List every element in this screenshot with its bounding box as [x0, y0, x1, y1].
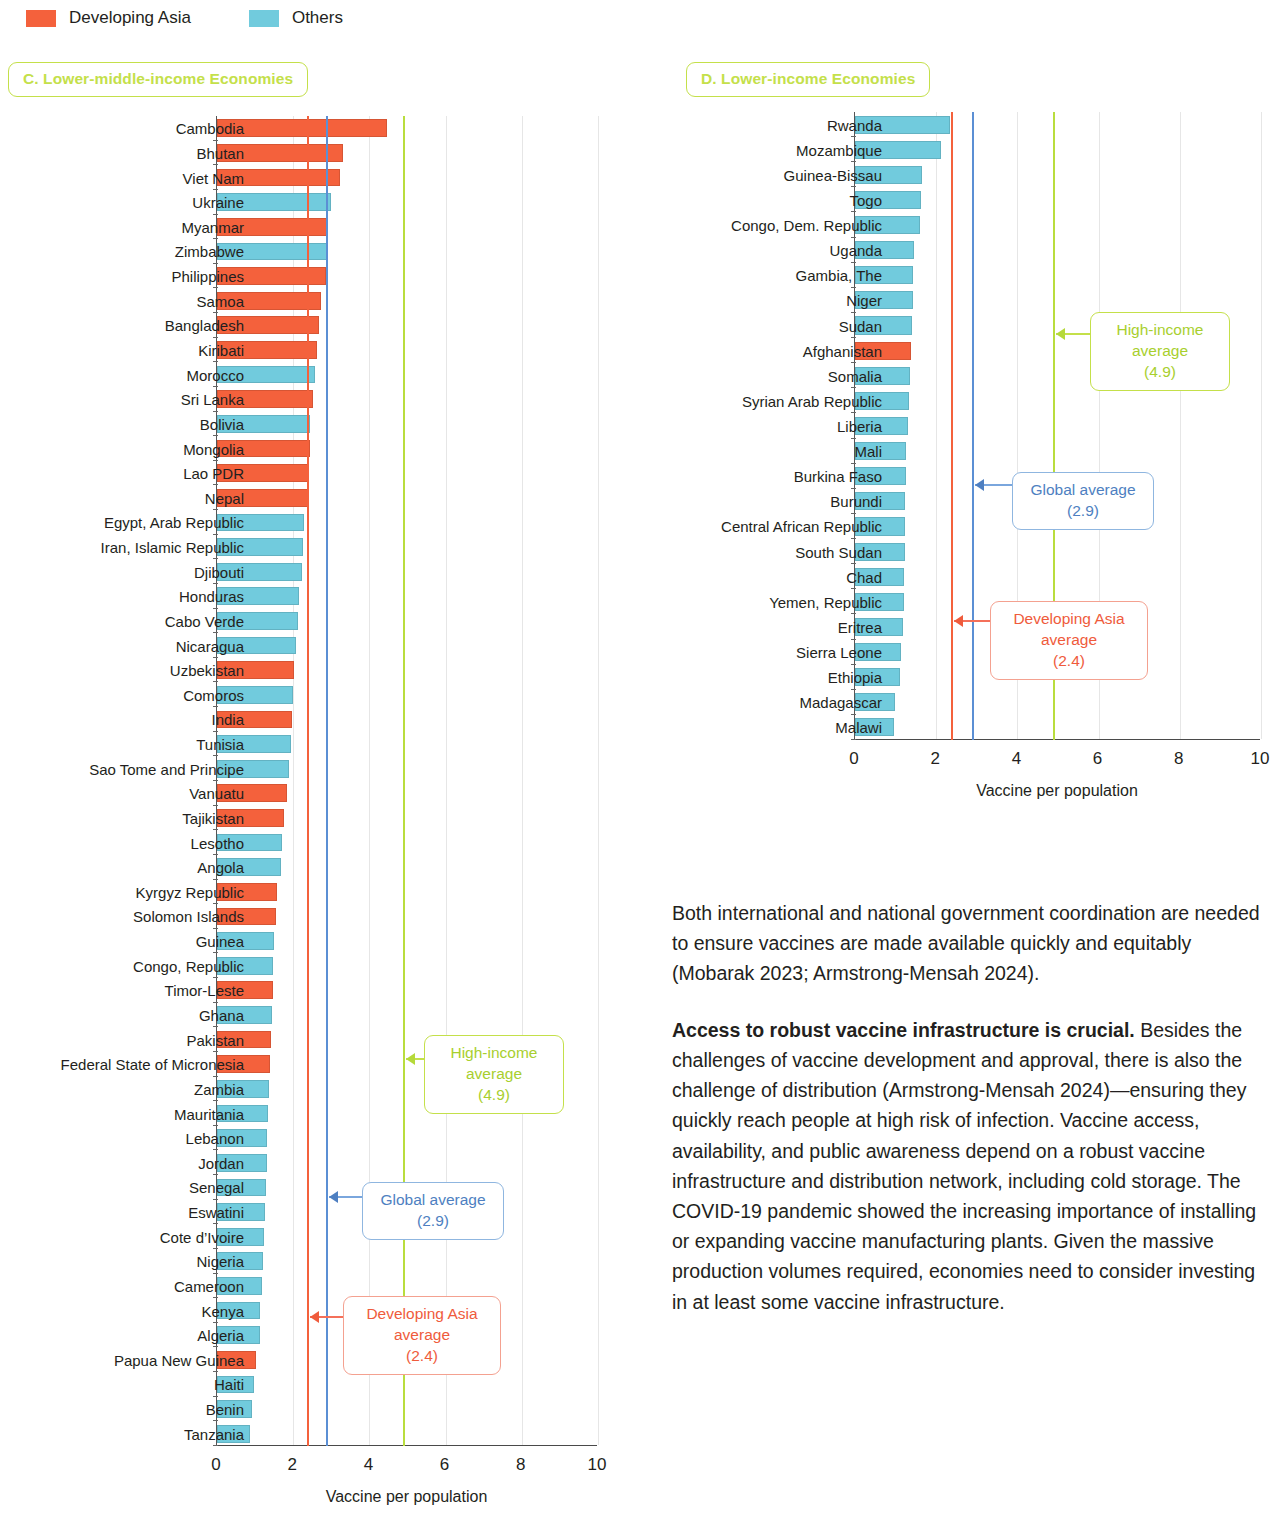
chart-c-y-tick — [213, 1420, 218, 1421]
chart-c-bar-row — [217, 193, 597, 211]
chart-c-category-label: Bhutan — [36, 146, 244, 161]
callout-high-income-average-c: High-incomeaverage(4.9) — [424, 1035, 564, 1114]
chart-c-category-label: Bangladesh — [36, 318, 244, 333]
chart-c-x-tick-label: 10 — [572, 1455, 622, 1475]
chart-c-bar-row — [217, 144, 597, 162]
chart-d-category-label: Burundi — [678, 494, 882, 509]
chart-c-bar-row — [217, 1277, 597, 1295]
chart-c-category-label: Egypt, Arab Republic — [36, 515, 244, 530]
chart-c-y-tick — [213, 1002, 218, 1003]
chart-d-refline-global — [972, 112, 974, 740]
chart-c-category-label: Congo, Republic — [36, 959, 244, 974]
chart-c-y-tick — [213, 411, 218, 412]
chart-d-y-tick — [851, 211, 856, 212]
chart-c-x-tick-label: 2 — [267, 1455, 317, 1475]
chart-d-bar-row — [855, 392, 1260, 410]
chart-d-y-tick — [851, 337, 856, 338]
paragraph-2: Access to robust vaccine infrastructure … — [672, 1015, 1262, 1317]
chart-c-y-tick — [213, 1445, 218, 1446]
chart-c-y-tick — [213, 509, 218, 510]
chart-c-bar-row — [217, 292, 597, 310]
chart-d-y-tick — [851, 563, 856, 564]
chart-c-y-tick — [213, 952, 218, 953]
chart-c-y-tick — [213, 903, 218, 904]
legend-item-others: Others — [249, 8, 343, 28]
callout-developing-asia-average-d: Developing Asiaaverage(2.4) — [990, 601, 1148, 680]
chart-c-y-tick — [213, 1051, 218, 1052]
chart-c-y-tick — [213, 460, 218, 461]
chart-c-y-tick — [213, 214, 218, 215]
chart-d-x-tick-label: 0 — [829, 749, 879, 769]
chart-c-category-label: Cabo Verde — [36, 614, 244, 629]
chart-c-category-label: Federal State of Micronesia — [36, 1057, 244, 1072]
chart-c-y-tick — [213, 879, 218, 880]
chart-c-y-tick — [213, 805, 218, 806]
chart-c-y-tick — [213, 780, 218, 781]
chart-c-category-label: Angola — [36, 860, 244, 875]
legend-item-developing-asia: Developing Asia — [26, 8, 191, 28]
chart-c-y-tick — [213, 435, 218, 436]
chart-c-category-label: Uzbekistan — [36, 663, 244, 678]
chart-d-bar-row — [855, 291, 1260, 309]
chart-c-y-tick — [213, 829, 218, 830]
chart-c-gridline — [293, 116, 294, 1445]
chart-c-y-tick — [213, 1396, 218, 1397]
chart-c-bar-row — [217, 981, 597, 999]
chart-c-category-label: Tajikistan — [36, 811, 244, 826]
chart-d-y-tick — [851, 237, 856, 238]
callout-developing-asia-average-d-line-2: average — [1001, 630, 1137, 651]
chart-d-y-tick — [851, 513, 856, 514]
chart-c-y-tick — [213, 1026, 218, 1027]
chart-c-category-label: Cameroon — [36, 1279, 244, 1294]
chart-c-y-tick — [213, 1223, 218, 1224]
chart-c-x-tick-label: 0 — [191, 1455, 241, 1475]
chart-c-y-tick — [213, 263, 218, 264]
chart-d-category-label: Afghanistan — [678, 344, 882, 359]
chart-c-category-label: Sao Tome and Principe — [36, 762, 244, 777]
chart-d-bar-row — [855, 543, 1260, 561]
chart-d-category-label: Yemen, Republic — [678, 595, 882, 610]
callout-global-average-c: Global average(2.9) — [362, 1182, 504, 1240]
callout-global-average-c-arrowhead — [329, 1191, 338, 1203]
chart-c-y-tick — [213, 1199, 218, 1200]
chart-c-y-tick — [213, 312, 218, 313]
chart-c-category-label: Zimbabwe — [36, 244, 244, 259]
chart-c-y-tick — [213, 657, 218, 658]
chart-c-bar-row — [217, 316, 597, 334]
chart-d-category-label: Central African Republic — [678, 519, 882, 534]
chart-c-category-label: Philippines — [36, 269, 244, 284]
callout-developing-asia-average-c-line-2: average — [354, 1325, 490, 1346]
chart-c-bar-row — [217, 711, 597, 729]
chart-d-y-tick — [851, 488, 856, 489]
paragraph-2-lead: Access to robust vaccine infrastructure … — [672, 1019, 1135, 1041]
callout-developing-asia-average-c-line-1: Developing Asia — [354, 1304, 490, 1325]
chart-c-refline-highinc — [403, 116, 405, 1446]
chart-c-y-tick — [213, 558, 218, 559]
callout-high-income-average-d-line-3: (4.9) — [1101, 362, 1219, 383]
chart-c-y-tick — [213, 706, 218, 707]
chart-c-category-label: Lebanon — [36, 1131, 244, 1146]
chart-d-category-label: Congo, Dem. Republic — [678, 218, 882, 233]
chart-d-category-label: Mali — [678, 444, 882, 459]
legend-label-developing-asia: Developing Asia — [69, 8, 191, 28]
chart-c-refline-global — [326, 116, 328, 1446]
chart-c-bar-row — [217, 243, 597, 261]
chart-c-bar-row — [217, 612, 597, 630]
chart-c-category-label: Solomon Islands — [36, 909, 244, 924]
chart-d-bar-row — [855, 568, 1260, 586]
chart-c-bar-row — [217, 366, 597, 384]
chart-c-bar-row — [217, 834, 597, 852]
chart-c-category-label: Nepal — [36, 491, 244, 506]
paragraph-2-rest: Besides the challenges of vaccine develo… — [672, 1019, 1256, 1313]
chart-d-x-axis-title: Vaccine per population — [854, 782, 1260, 800]
chart-c-category-label: Ukraine — [36, 195, 244, 210]
chart-c-category-label: Morocco — [36, 368, 244, 383]
article-body: Both international and national governme… — [672, 898, 1262, 1317]
chart-c-y-tick — [213, 1273, 218, 1274]
chart-c-category-label: Mauritania — [36, 1107, 244, 1122]
chart-c-y-tick — [213, 164, 218, 165]
chart-c-category-label: Mongolia — [36, 442, 244, 457]
chart-d-category-label: Malawi — [678, 720, 882, 735]
chart-c-bar-row — [217, 489, 597, 507]
chart-d-category-label: Rwanda — [678, 118, 882, 133]
